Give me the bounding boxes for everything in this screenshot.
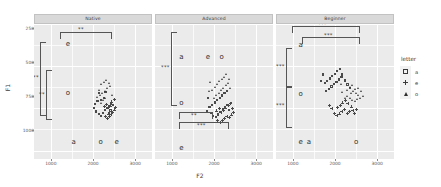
scatter-point-a	[219, 97, 221, 99]
legend-item-o[interactable]: o	[400, 88, 441, 99]
scatter-point-a	[324, 82, 326, 84]
scatter-point-o	[357, 94, 359, 96]
x-tick-label: 3000	[244, 161, 268, 166]
y-tick-label: 750	[2, 94, 34, 99]
significance-stars: ***	[276, 64, 285, 69]
scatter-point-a	[333, 83, 335, 85]
facet-panel-native: Native aoeoe******	[34, 14, 152, 159]
scatter-point-o	[228, 78, 230, 80]
scatter-point-o	[99, 94, 101, 96]
significance-stars: **	[34, 75, 39, 80]
scatter-point-o	[229, 87, 231, 89]
scatter-point-o	[108, 82, 110, 84]
annotation-letter: e	[298, 139, 302, 146]
scatter-point-o	[214, 86, 216, 88]
x-tick-mark	[172, 159, 173, 161]
legend-label: o	[415, 91, 418, 97]
scatter-point-o	[357, 87, 359, 89]
significance-stars: ***	[197, 123, 206, 128]
scatter-point-a	[331, 75, 333, 77]
scatter-point-o	[216, 83, 218, 85]
scatter-point-o	[215, 94, 217, 96]
x-tick-mark	[93, 159, 94, 161]
annotation-letter: a	[72, 139, 76, 146]
scatter-point-o	[350, 92, 352, 94]
scatter-point-o	[218, 80, 220, 82]
scatter-point-e	[215, 109, 218, 112]
scatter-point-o	[225, 73, 227, 75]
plot-area: eoaeo********	[155, 24, 273, 159]
scatter-point-o	[354, 100, 356, 102]
annotation-letter: e	[206, 54, 210, 61]
plot-area: aoeoe******	[34, 24, 152, 159]
scatter-point-a	[207, 97, 209, 99]
annotation-letter: o	[66, 90, 70, 97]
scatter-point-o	[211, 89, 213, 91]
scatter-point-o	[218, 92, 220, 94]
scatter-point-a	[95, 110, 97, 112]
scatter-point-a	[335, 81, 337, 83]
x-tick-mark	[377, 159, 378, 161]
scatter-point-e	[232, 111, 235, 114]
scatter-point-e	[231, 107, 234, 110]
significance-bracket-horizontal	[302, 37, 360, 44]
legend-item-a[interactable]: a	[400, 66, 441, 77]
scatter-point-a	[96, 100, 98, 102]
scatter-point-o	[100, 83, 102, 85]
scatter-point-a	[329, 77, 331, 79]
scatter-point-a	[93, 107, 95, 109]
x-axis-title: F2	[0, 172, 400, 179]
scatter-point-o	[222, 87, 224, 89]
scatter-point-a	[325, 90, 327, 92]
significance-bracket-vertical	[286, 86, 292, 128]
annotation-letter: o	[354, 139, 358, 146]
scatter-point-a	[334, 73, 336, 75]
annotation-letter: a	[179, 54, 183, 61]
scatter-point-a	[208, 106, 210, 108]
scatter-point-a	[320, 80, 322, 82]
y-tick-label: 500	[2, 60, 34, 65]
x-tick-label: 3000	[365, 161, 389, 166]
scatter-point-o	[103, 81, 105, 83]
scatter-point-a	[104, 109, 106, 111]
scatter-point-o	[109, 85, 111, 87]
legend-key-square-icon	[400, 66, 411, 77]
scatter-point-o	[209, 81, 211, 83]
significance-bracket-vertical	[46, 70, 52, 120]
scatter-point-a	[330, 85, 332, 87]
scatter-point-a	[215, 116, 217, 118]
annotation-letter: e	[115, 139, 119, 146]
significance-stars: **	[191, 113, 197, 118]
significance-stars: ***	[318, 24, 327, 27]
scatter-point-a	[214, 101, 216, 103]
scatter-point-a	[94, 103, 96, 105]
legend-label: a	[415, 69, 418, 75]
significance-bracket-vertical	[286, 48, 292, 88]
legend-item-e[interactable]: e	[400, 77, 441, 88]
scatter-point-o	[362, 95, 364, 97]
legend: letter a e o	[400, 56, 441, 99]
chart-root: F1 250 500 750 1000 F2 Native aoeoe*****…	[0, 0, 441, 187]
scatter-point-e	[107, 112, 110, 115]
scatter-point-e	[330, 107, 333, 110]
scatter-point-a	[344, 79, 346, 81]
scatter-point-a	[211, 104, 213, 106]
scatter-point-o	[340, 83, 342, 85]
facet-strip-label: Beginner	[276, 16, 394, 21]
x-tick-label: 2000	[323, 161, 347, 166]
significance-bracket-vertical	[171, 32, 177, 106]
x-tick-mark	[214, 159, 215, 161]
scatter-point-a	[340, 76, 342, 78]
scatter-point-o	[101, 92, 103, 94]
facet-panel-advanced: Advanced eoaeo********	[155, 14, 273, 159]
scatter-point-o	[227, 82, 229, 84]
x-tick-label: 1000	[281, 161, 305, 166]
significance-stars: ***	[161, 65, 170, 70]
scatter-point-e	[113, 98, 116, 101]
legend-label: e	[415, 80, 418, 86]
scatter-point-o	[100, 102, 102, 104]
annotation-letter: e	[179, 145, 183, 152]
scatter-point-a	[221, 94, 223, 96]
y-axis: 250 500 750 1000	[0, 0, 34, 187]
scatter-point-o	[104, 97, 106, 99]
